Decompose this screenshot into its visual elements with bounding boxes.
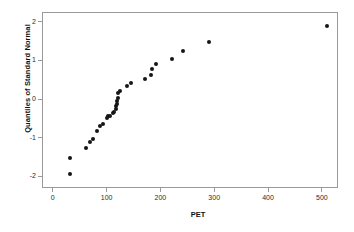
x-tick-label: 200 — [146, 194, 174, 201]
data-point — [91, 137, 95, 141]
data-point — [325, 24, 329, 28]
qq-plot-figure: Quantiles of Standard Normal 210-1-2 PET… — [0, 0, 354, 232]
y-tick-label: -1 — [30, 132, 36, 143]
data-point — [95, 129, 99, 133]
x-tick-label: 300 — [200, 194, 228, 201]
data-point — [68, 156, 72, 160]
data-point — [112, 110, 116, 114]
data-point — [125, 84, 129, 88]
y-tick-label: -2 — [30, 170, 36, 181]
x-tick-mark — [52, 188, 53, 192]
data-point — [101, 122, 105, 126]
data-point — [84, 146, 88, 150]
x-tick-mark — [321, 188, 322, 192]
data-point — [118, 89, 122, 93]
y-tick-label: 2 — [32, 16, 36, 27]
data-point — [170, 57, 174, 61]
x-tick-mark — [214, 188, 215, 192]
data-point — [154, 62, 158, 66]
y-tick-label: 1 — [32, 54, 36, 65]
data-point — [88, 140, 92, 144]
data-point — [116, 96, 120, 100]
x-tick-mark — [106, 188, 107, 192]
x-tick-label: 100 — [93, 194, 121, 201]
x-tick-mark — [160, 188, 161, 192]
data-point — [143, 77, 147, 81]
x-tick-label: 0 — [39, 194, 67, 201]
scatter-points-layer — [43, 13, 337, 187]
data-point — [129, 81, 133, 85]
x-tick-label: 500 — [308, 194, 336, 201]
data-point — [150, 67, 154, 71]
x-axis: PET 0100200300400500 — [0, 188, 354, 232]
data-point — [149, 73, 153, 77]
x-tick-label: 400 — [254, 194, 282, 201]
plot-area — [42, 12, 338, 188]
y-tick-label: 0 — [32, 93, 36, 104]
x-axis-title: PET — [0, 210, 354, 219]
data-point — [68, 172, 72, 176]
data-point — [207, 40, 211, 44]
data-point — [181, 49, 185, 53]
x-tick-mark — [268, 188, 269, 192]
